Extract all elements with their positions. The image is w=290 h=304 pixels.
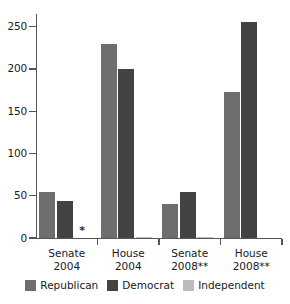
- bar-democrat-0: [57, 201, 73, 238]
- x-label-line1: Senate: [48, 247, 85, 259]
- y-tick-label-150: 150: [8, 106, 27, 117]
- bar-democrat-2: [180, 192, 196, 238]
- bar-republican-1: [101, 44, 117, 238]
- x-label-line2: 2008**: [221, 260, 283, 273]
- x-separator-2: [158, 239, 159, 245]
- legend-item-independent[interactable]: Independent: [183, 280, 265, 291]
- legend-swatch-icon: [183, 280, 194, 291]
- y-tick-200: [29, 68, 36, 69]
- y-tick-label-0: 0: [21, 233, 27, 244]
- x-label-2: Senate2008**: [159, 247, 221, 272]
- bar-democrat-1: [118, 69, 134, 238]
- legend-swatch-icon: [25, 280, 36, 291]
- x-label-line1: House: [112, 247, 145, 259]
- bar-democrat-3: [241, 22, 257, 238]
- x-label-line2: 2008**: [159, 260, 221, 273]
- y-axis-line: [36, 14, 37, 239]
- bar-chart: 050100150200250 * Senate2004House2004Sen…: [0, 0, 290, 304]
- legend-item-republican[interactable]: Republican: [25, 280, 98, 291]
- legend-label: Republican: [40, 280, 98, 291]
- chart-legend: RepublicanDemocratIndependent: [0, 280, 290, 291]
- x-label-1: House2004: [98, 247, 160, 272]
- y-tick-250: [29, 26, 36, 27]
- bar-republican-3: [224, 92, 240, 238]
- y-tick-100: [29, 153, 36, 154]
- asterisk-annotation: *: [79, 225, 85, 236]
- x-label-0: Senate2004: [36, 247, 98, 272]
- y-tick-label-200: 200: [8, 63, 27, 74]
- x-label-3: House2008**: [221, 247, 283, 272]
- y-tick-0: [29, 237, 36, 238]
- y-tick-label-100: 100: [8, 148, 27, 159]
- legend-label: Independent: [198, 280, 265, 291]
- y-tick-50: [29, 195, 36, 196]
- x-label-line1: House: [235, 247, 268, 259]
- x-separator-4: [281, 239, 282, 245]
- y-tick-150: [29, 111, 36, 112]
- legend-swatch-icon: [107, 280, 118, 291]
- x-separator-1: [97, 239, 98, 245]
- bar-independent-2: [197, 237, 213, 238]
- x-label-line1: Senate: [171, 247, 208, 259]
- x-label-line2: 2004: [36, 260, 98, 273]
- bar-republican-2: [162, 204, 178, 238]
- bar-republican-0: [39, 192, 55, 238]
- bar-independent-1: [136, 237, 152, 238]
- x-label-line2: 2004: [98, 260, 160, 273]
- y-tick-label-250: 250: [8, 21, 27, 32]
- legend-label: Democrat: [122, 280, 174, 291]
- y-tick-label-50: 50: [14, 190, 27, 201]
- legend-item-democrat[interactable]: Democrat: [107, 280, 174, 291]
- x-separator-3: [220, 239, 221, 245]
